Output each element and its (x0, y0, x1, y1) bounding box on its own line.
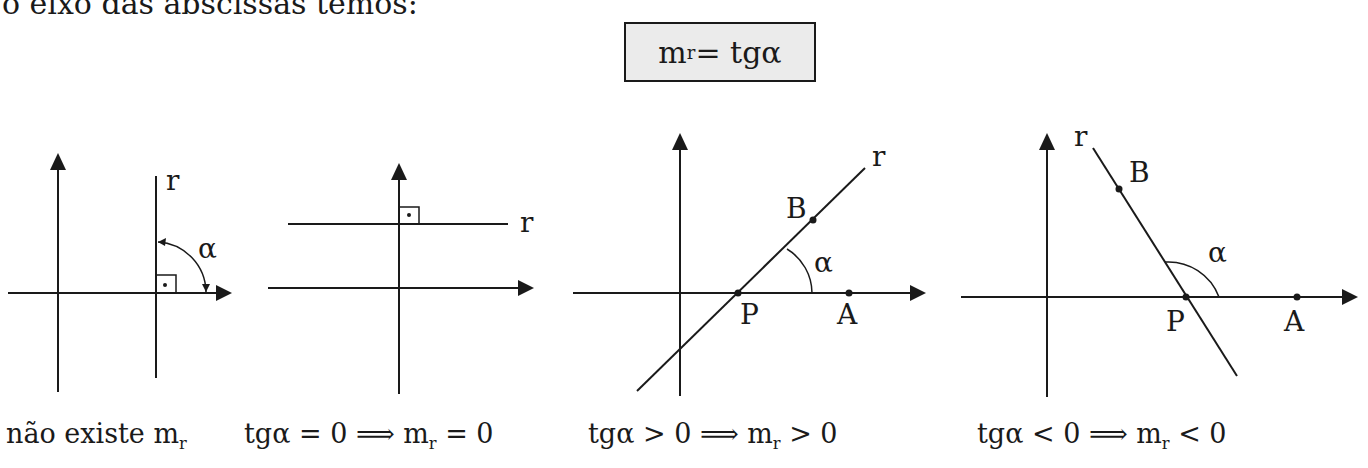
point-b (1116, 186, 1123, 193)
caption-text: tgα = 0 ⟹ m (244, 418, 429, 449)
y-axis-arrow-icon (50, 153, 66, 170)
diagram-negative-slope (961, 133, 1358, 397)
caption-positive-slope: tgα > 0 ⟹ mr > 0 (588, 418, 838, 453)
label-b: B (1129, 156, 1150, 189)
point-b (810, 217, 817, 224)
point-p (735, 290, 742, 297)
right-angle-dot (407, 213, 411, 217)
label-r: r (872, 140, 886, 173)
label-alpha: α (1208, 236, 1227, 269)
caption-after: < 0 (1170, 418, 1227, 449)
label-alpha: α (198, 232, 217, 265)
slope-diagrams: r α r r B α P A r B α P (0, 0, 1368, 468)
caption-text: tgα < 0 ⟹ m (977, 418, 1162, 449)
caption-after: > 0 (781, 418, 838, 449)
caption-text: tgα > 0 ⟹ m (588, 418, 773, 449)
point-p (1183, 294, 1190, 301)
caption-after: = 0 (437, 418, 494, 449)
caption-subscript: r (429, 434, 437, 453)
point-a (846, 290, 853, 297)
line-r (637, 168, 865, 391)
caption-horizontal-line: tgα = 0 ⟹ mr = 0 (244, 418, 494, 453)
label-r: r (166, 164, 180, 197)
y-axis-arrow-icon (672, 133, 688, 150)
x-axis-arrow-icon (910, 285, 926, 301)
y-axis-arrow-icon (391, 163, 407, 180)
caption-subscript: r (179, 434, 187, 453)
label-b: B (786, 192, 807, 225)
label-r: r (520, 206, 534, 239)
angle-arc-arrow-start-icon (158, 238, 166, 246)
label-r: r (1074, 120, 1088, 153)
right-angle-dot (163, 283, 167, 287)
diagram-vertical-line (8, 153, 232, 392)
label-p: P (740, 298, 759, 331)
label-a: A (1283, 305, 1305, 338)
x-axis-arrow-icon (1342, 289, 1358, 305)
label-a: A (836, 298, 858, 331)
label-alpha: α (814, 246, 833, 279)
point-a (1294, 294, 1301, 301)
x-axis-arrow-icon (216, 285, 232, 301)
caption-subscript: r (1162, 434, 1170, 453)
y-axis-arrow-icon (1039, 133, 1055, 150)
x-axis-arrow-icon (518, 280, 534, 296)
caption-negative-slope: tgα < 0 ⟹ mr < 0 (977, 418, 1227, 453)
caption-text: não existe m (6, 418, 179, 449)
angle-arc-arrow-end-icon (202, 284, 210, 292)
label-p: P (1166, 305, 1185, 338)
angle-arc (787, 249, 812, 293)
diagram-horizontal-line (268, 163, 534, 394)
caption-subscript: r (773, 434, 781, 453)
caption-vertical-line: não existe mr (6, 418, 187, 453)
